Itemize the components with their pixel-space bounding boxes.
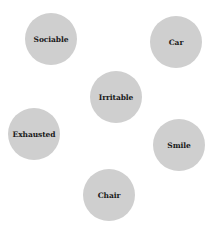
bubble-car: Car [150, 16, 202, 68]
bubble-label: Smile [167, 141, 190, 150]
bubble-chair: Chair [83, 169, 135, 221]
bubble-exhausted: Exhausted [8, 108, 60, 160]
bubble-smile: Smile [153, 119, 205, 171]
bubble-sociable: Sociable [25, 13, 77, 65]
bubble-irritable: Irritable [90, 71, 142, 123]
bubble-label: Car [169, 38, 183, 47]
bubble-label: Irritable [99, 93, 134, 102]
bubble-label: Exhausted [13, 130, 56, 139]
bubble-label: Chair [98, 191, 121, 200]
bubble-label: Sociable [34, 35, 69, 44]
